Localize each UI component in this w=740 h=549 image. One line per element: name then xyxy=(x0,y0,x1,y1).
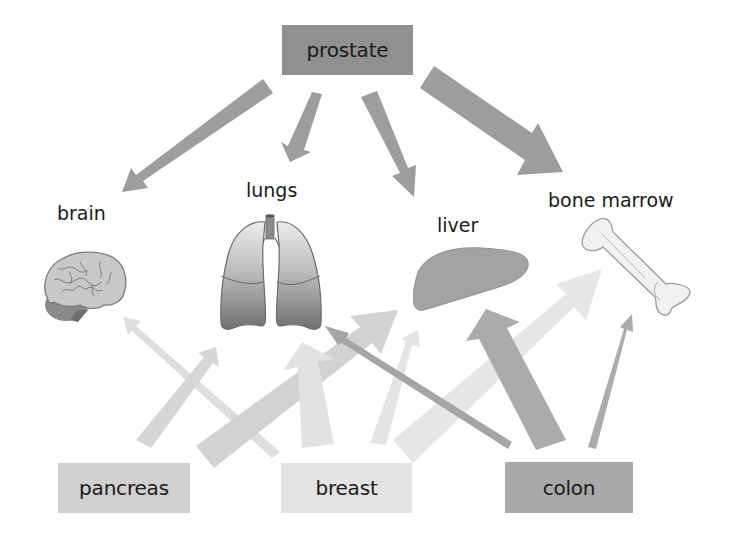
organ-label-brain: brain xyxy=(57,202,106,224)
organ-label-bone-marrow: bone marrow xyxy=(548,189,674,211)
source-box-colon: colon xyxy=(505,462,633,513)
arrow-prostate-to-lungs xyxy=(281,92,322,162)
arrow-pancreas-to-liver xyxy=(196,310,398,468)
arrow-prostate-to-liver xyxy=(361,91,416,197)
source-box-pancreas: pancreas xyxy=(58,463,190,513)
arrow-prostate-to-brain xyxy=(122,79,273,192)
source-label-breast: breast xyxy=(315,476,377,500)
source-label-colon: colon xyxy=(543,476,596,500)
arrow-colon-to-bone-marrow xyxy=(588,314,633,449)
source-label-prostate: prostate xyxy=(307,38,389,62)
brain-icon xyxy=(45,252,126,322)
source-box-prostate: prostate xyxy=(282,25,413,75)
organ-label-lungs: lungs xyxy=(246,179,297,201)
source-label-pancreas: pancreas xyxy=(79,476,169,500)
source-box-breast: breast xyxy=(281,463,412,513)
liver-icon xyxy=(413,248,528,311)
lungs-icon xyxy=(221,215,321,330)
bone-icon xyxy=(582,218,690,315)
organ-label-liver: liver xyxy=(437,214,478,236)
arrow-prostate-to-bone-marrow xyxy=(420,66,563,175)
